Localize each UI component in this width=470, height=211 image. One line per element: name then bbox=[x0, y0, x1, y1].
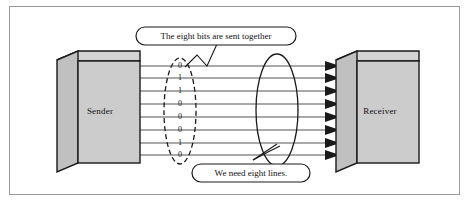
sender-label: Sender bbox=[64, 106, 136, 116]
bit-value: 0 bbox=[175, 151, 185, 159]
top-callout-label: The eight bits are sent together bbox=[140, 31, 292, 41]
receiver-label: Receiver bbox=[344, 106, 416, 116]
top-callout-leader bbox=[185, 44, 217, 67]
bit-value: 1 bbox=[175, 139, 185, 147]
bit-value: 0 bbox=[175, 100, 185, 108]
bit-value: 1 bbox=[175, 87, 185, 95]
bottom-callout-leader-2 bbox=[253, 144, 277, 160]
bit-value: 0 bbox=[175, 113, 185, 121]
bit-value: 0 bbox=[175, 62, 185, 70]
bit-value: 0 bbox=[175, 126, 185, 134]
bus-lines bbox=[140, 66, 335, 155]
figure-parallel-transmission: Sender Receiver The eight bits are sent … bbox=[0, 0, 470, 211]
bottom-callout-label: We need eight lines. bbox=[196, 168, 306, 178]
bit-value: 1 bbox=[175, 74, 185, 82]
line-group-ellipse bbox=[256, 54, 298, 166]
